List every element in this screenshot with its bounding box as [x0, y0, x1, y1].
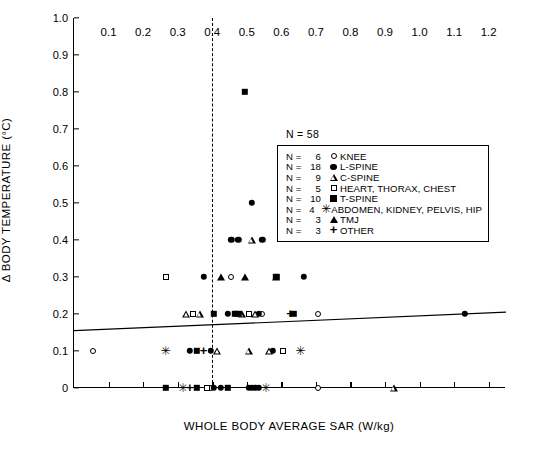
legend-rows: N =6KNEEN =18L-SPINEN =9C-SPINEN =5HEART…	[286, 151, 482, 236]
data-point	[241, 274, 249, 281]
marker-filled-circle	[249, 200, 255, 206]
marker-open-triangle	[390, 385, 398, 392]
data-point: ✳	[261, 385, 271, 391]
marker-filled-circle	[218, 385, 224, 391]
marker-asterisk: ✳	[161, 348, 171, 354]
data-point	[196, 311, 204, 318]
data-point	[315, 385, 321, 391]
data-point: +	[286, 311, 294, 317]
marker-filled-triangle	[272, 274, 280, 281]
data-point: +	[186, 385, 194, 391]
x-axis-label: WHOLE BODY AVERAGE SAR (W/kg)	[184, 420, 395, 432]
legend-label: ABDOMEN, KIDNEY, PELVIS, HIP	[331, 204, 482, 215]
data-point: ✳	[161, 348, 171, 354]
marker-plus: +	[286, 311, 294, 317]
marker-open-triangle	[213, 348, 221, 355]
data-point	[163, 274, 169, 280]
marker-open-triangle	[248, 237, 256, 244]
y-tick-label: 1.0	[53, 12, 74, 24]
y-tick-label: 0	[62, 382, 74, 394]
marker-filled-circle	[187, 348, 193, 354]
legend-item-tmj: N =3TMJ	[286, 215, 482, 226]
legend-n-value: 4	[302, 204, 315, 215]
marker-filled-circle	[200, 274, 206, 280]
marker-filled-circle	[301, 274, 307, 280]
legend-n-value: 3	[305, 225, 321, 236]
marker-filled-square	[242, 89, 248, 95]
legend-n-value: 3	[305, 214, 321, 225]
marker-open-triangle	[265, 348, 273, 355]
marker-asterisk: ✳	[261, 385, 271, 391]
legend-label: TMJ	[340, 214, 359, 225]
legend-n-label: N =	[286, 183, 305, 194]
marker-filled-circle	[461, 311, 467, 317]
marker-filled-square	[235, 311, 241, 317]
marker-filled-square	[193, 385, 199, 391]
marker-filled-circle	[330, 164, 336, 170]
legend-n-label: N =	[286, 161, 305, 172]
data-point	[217, 274, 225, 281]
data-point	[190, 311, 196, 317]
data-point	[235, 237, 241, 243]
data-point	[390, 385, 398, 392]
legend-item-knee: N =6KNEE	[286, 151, 482, 162]
data-point	[162, 385, 168, 391]
legend-item-other: N =3+OTHER	[286, 225, 482, 236]
y-tick-label: 0.4	[53, 234, 74, 246]
marker-open-square	[204, 385, 210, 391]
data-point	[200, 274, 206, 280]
marker-filled-triangle	[217, 274, 225, 281]
legend-n-label: N =	[286, 225, 305, 236]
y-tick-label: 0.5	[53, 197, 74, 209]
legend-item-abdomen: N =4✳ABDOMEN, KIDNEY, PELVIS, HIP	[286, 204, 482, 215]
marker-open-triangle	[251, 311, 259, 318]
marker-plus: +	[330, 227, 338, 233]
legend-n-label: N =	[286, 204, 302, 215]
data-point	[90, 348, 96, 354]
scatter-plot-figure: Δ BODY TEMPERATURE (°C) 00.10.20.30.40.5…	[0, 0, 536, 451]
marker-open-triangle	[245, 348, 253, 355]
marker-open-square	[280, 348, 286, 354]
marker-open-square	[331, 185, 337, 191]
marker-open-circle	[228, 274, 234, 280]
data-point	[280, 348, 286, 354]
marker-filled-circle	[259, 237, 265, 243]
marker-open-square	[246, 311, 252, 317]
legend-label: C-SPINE	[340, 172, 380, 183]
marker-filled-square	[211, 311, 217, 317]
legend-n-label: N =	[286, 172, 305, 183]
legend-item-t-spine: N =10T-SPINE	[286, 193, 482, 204]
legend-item-heart: N =5HEART, THORAX, CHEST	[286, 183, 482, 194]
y-tick-label: 0.3	[53, 271, 74, 283]
legend-label: OTHER	[340, 225, 374, 236]
marker-asterisk: ✳	[321, 206, 331, 212]
data-point	[228, 237, 234, 243]
total-count-label: N = 58	[286, 128, 319, 140]
legend-n-value: 18	[305, 161, 321, 172]
y-axis-label: Δ BODY TEMPERATURE (°C)	[0, 118, 12, 283]
data-point	[211, 385, 217, 391]
data-point	[211, 311, 217, 317]
marker-open-circle	[90, 348, 96, 354]
data-point	[218, 385, 224, 391]
data-point	[461, 311, 467, 317]
marker-filled-circle	[211, 385, 217, 391]
data-point	[213, 348, 221, 355]
data-point	[204, 385, 210, 391]
data-point	[301, 274, 307, 280]
data-point	[225, 385, 231, 391]
legend-marker	[327, 174, 340, 181]
marker-open-triangle	[330, 174, 338, 181]
legend-n-value: 6	[305, 151, 321, 162]
legend: N =6KNEEN =18L-SPINEN =9C-SPINEN =5HEART…	[277, 145, 489, 242]
legend-label: HEART, THORAX, CHEST	[340, 183, 456, 194]
data-point	[242, 89, 248, 95]
legend-marker	[327, 185, 340, 191]
legend-n-value: 5	[305, 183, 321, 194]
marker-asterisk: ✳	[295, 348, 305, 354]
marker-open-square	[190, 311, 196, 317]
marker-filled-triangle	[241, 274, 249, 281]
data-point	[248, 237, 256, 244]
marker-plus: +	[186, 385, 194, 391]
data-point	[272, 274, 280, 281]
